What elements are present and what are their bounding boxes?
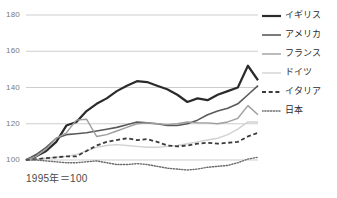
legend-item-label: イギリス xyxy=(285,11,321,20)
y-axis-tick-label: 160 xyxy=(2,47,20,55)
y-axis-tick-label: 140 xyxy=(2,84,20,92)
legend-item[interactable]: イタリア xyxy=(262,82,337,101)
series-lines xyxy=(26,66,258,170)
y-axis-tick-label: 180 xyxy=(2,11,20,19)
legend-item-label: 日本 xyxy=(285,106,303,115)
series-line xyxy=(26,122,258,160)
legend-item-label: イタリア xyxy=(285,87,321,96)
legend-item-label: アメリカ xyxy=(285,30,321,39)
legend-item[interactable]: フランス xyxy=(262,44,337,63)
gridlines xyxy=(26,15,258,160)
legend-swatch-icon xyxy=(262,30,281,40)
legend-item-label: ドイツ xyxy=(285,68,312,77)
y-axis-tick-label: 100 xyxy=(2,156,20,164)
series-line xyxy=(26,66,258,160)
series-line xyxy=(26,157,258,170)
chart-caption: 1995年＝100 xyxy=(26,170,88,185)
legend-swatch-icon xyxy=(262,11,281,21)
legend-item[interactable]: イギリス xyxy=(262,6,337,25)
legend-item[interactable]: アメリカ xyxy=(262,25,337,44)
legend-item[interactable]: ドイツ xyxy=(262,63,337,82)
legend-item-label: フランス xyxy=(285,49,321,58)
legend-item[interactable]: 日本 xyxy=(262,101,337,120)
chart-legend: イギリスアメリカフランスドイツイタリア日本 xyxy=(262,6,337,120)
y-axis-tick-label: 120 xyxy=(2,120,20,128)
legend-swatch-icon xyxy=(262,68,281,78)
legend-swatch-icon xyxy=(262,49,281,59)
legend-swatch-icon xyxy=(262,87,281,97)
line-chart: 100120140160180 1995年＝100 イギリスアメリカフランスドイ… xyxy=(0,0,337,198)
legend-swatch-icon xyxy=(262,106,281,116)
